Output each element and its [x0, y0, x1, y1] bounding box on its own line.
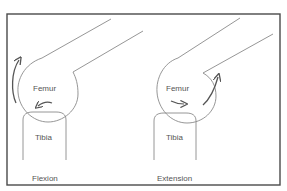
roll-arrow-icon [13, 60, 19, 103]
caption-extension: Extension [157, 174, 192, 183]
femur-shape-flexion [18, 19, 143, 122]
caption-flexion: Flexion [32, 174, 58, 183]
glide-arrow-icon [38, 102, 52, 106]
glide-arrow-icon [171, 101, 184, 104]
femur-label-flexion: Femur [33, 84, 56, 93]
femur-label-extension: Femur [166, 84, 189, 93]
tibia-label-flexion: Tibia [35, 133, 52, 142]
diagram-frame [7, 14, 280, 185]
tibia-label-extension: Tibia [166, 133, 183, 142]
knee-diagram [0, 0, 287, 191]
femur-shape-extension [157, 18, 273, 123]
